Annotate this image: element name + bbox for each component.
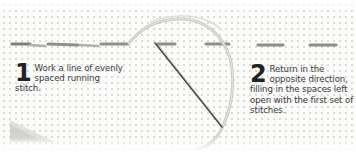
needle-icon: [155, 42, 222, 127]
step-1-number: 1: [15, 64, 32, 83]
step-1-caption: 1 Work a line of evenly spaced running s…: [15, 63, 125, 94]
thread-loop-icon: [128, 16, 233, 152]
top-fade: [0, 0, 356, 14]
step-2-number: 2: [250, 65, 267, 84]
step-2-caption: 2 Return in the opposite direction, fill…: [250, 64, 354, 115]
running-stitch-row: [12, 44, 336, 46]
bottom-fade: [0, 136, 356, 152]
